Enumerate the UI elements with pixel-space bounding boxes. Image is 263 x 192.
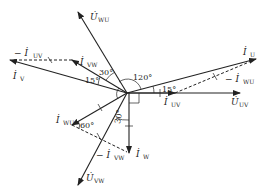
- svg-text:U: U: [250, 51, 255, 58]
- label-neg-i-wu: − İ WU: [225, 73, 254, 85]
- label-i-w: İ W: [135, 148, 150, 160]
- svg-text:İ: İ: [12, 70, 17, 81]
- angle-30-bottom: 30°: [113, 109, 124, 125]
- tick-mark: [97, 133, 101, 140]
- svg-text:İ: İ: [163, 96, 168, 107]
- label-u-vw: U̇ VW: [86, 172, 105, 184]
- svg-text:VW: VW: [93, 177, 105, 184]
- phasor-diagram: 120° 30° 15° 15° 60° 30° U̇ WU − İ UV İ …: [0, 0, 263, 192]
- label-i-v: İ V: [12, 70, 25, 82]
- label-i-wu: İ WU: [55, 114, 74, 126]
- svg-text:VW: VW: [113, 154, 125, 161]
- label-i-u: İ U: [242, 46, 255, 58]
- angle-60: 60°: [80, 121, 94, 130]
- svg-text:− İ: − İ: [225, 73, 239, 84]
- svg-text:UV: UV: [33, 52, 43, 59]
- angle-15-right: 15°: [162, 85, 176, 94]
- svg-text:V: V: [19, 75, 25, 82]
- label-i-vw: İ VW: [79, 56, 98, 68]
- svg-text:WU: WU: [98, 16, 109, 23]
- svg-text:WU: WU: [243, 78, 254, 85]
- svg-text:− İ: − İ: [14, 47, 28, 58]
- label-neg-i-vw: − İ VW: [96, 149, 125, 161]
- svg-text:U̇: U̇: [231, 96, 239, 107]
- angle-15-left: 15°: [85, 76, 99, 85]
- label-i-uv: İ UV: [163, 96, 181, 108]
- svg-text:VW: VW: [86, 61, 98, 68]
- svg-text:UV: UV: [171, 101, 181, 108]
- angle-120: 120°: [133, 73, 152, 82]
- label-neg-i-uv: − İ UV: [14, 47, 43, 59]
- svg-text:WU: WU: [63, 119, 74, 126]
- right-angle-marker: [129, 93, 139, 103]
- svg-text:− İ: − İ: [96, 149, 110, 160]
- label-u-uv: U̇ UV: [231, 96, 249, 108]
- svg-text:UV: UV: [239, 101, 249, 108]
- svg-text:İ: İ: [135, 148, 140, 159]
- arc-15-right: [153, 86, 154, 93]
- angle-30-top: 30°: [99, 68, 113, 77]
- svg-text:W: W: [143, 153, 150, 160]
- svg-text:U̇: U̇: [90, 11, 98, 22]
- dashed-neg-i-wu: [175, 60, 254, 93]
- label-u-wu: U̇ WU: [90, 11, 109, 23]
- svg-text:İ: İ: [242, 46, 247, 57]
- svg-text:İ: İ: [55, 114, 60, 125]
- svg-text:İ: İ: [79, 56, 84, 67]
- svg-text:U̇: U̇: [86, 172, 94, 183]
